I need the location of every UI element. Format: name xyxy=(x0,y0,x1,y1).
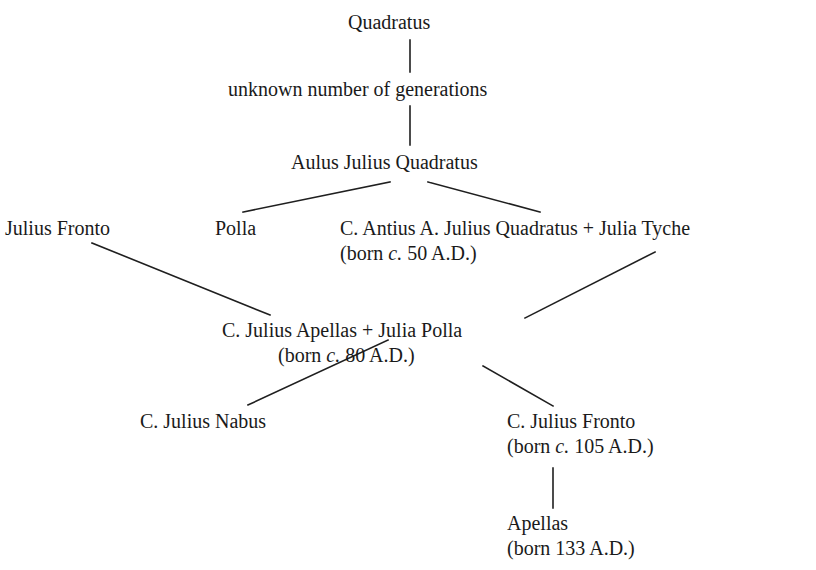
node-aulus-julius-quadratus: Aulus Julius Quadratus xyxy=(291,150,478,175)
edge-aulus-polla xyxy=(243,182,390,212)
node-polla: Polla xyxy=(215,216,256,241)
node-julius-fronto-jr: C. Julius Fronto (born c. 105 A.D.) xyxy=(507,409,654,459)
node-unknown-generations-label: unknown number of generations xyxy=(228,77,487,102)
node-antius-birth-note: (born c. 50 A.D.) xyxy=(340,241,690,266)
node-quadratus-label: Quadratus xyxy=(348,10,430,35)
node-julius-fronto-jr-birth-note: (born c. 105 A.D.) xyxy=(507,434,654,459)
genealogy-chart: Quadratus unknown number of generations … xyxy=(0,0,816,570)
node-antius-julius-quadratus-couple-label: C. Antius A. Julius Quadratus + Julia Ty… xyxy=(340,216,690,241)
node-julius-apellas-couple: C. Julius Apellas + Julia Polla (born c.… xyxy=(222,318,462,368)
node-apellas-birth-note: (born 133 A.D.) xyxy=(507,536,635,561)
node-quadratus: Quadratus xyxy=(348,10,430,35)
node-julius-nabus-label: C. Julius Nabus xyxy=(140,409,266,434)
node-julius-apellas-couple-label: C. Julius Apellas + Julia Polla xyxy=(222,318,462,343)
node-aulus-julius-quadratus-label: Aulus Julius Quadratus xyxy=(291,150,478,175)
edge-apellascouple-fronto xyxy=(483,366,553,406)
edge-fronto-apellascouple xyxy=(92,243,270,315)
node-julia-polla-birth-note: (born c. 80 A.D.) xyxy=(222,343,462,368)
node-julius-fronto: Julius Fronto xyxy=(5,216,110,241)
node-julius-nabus: C. Julius Nabus xyxy=(140,409,266,434)
node-apellas: Apellas (born 133 A.D.) xyxy=(507,511,635,561)
node-julius-fronto-jr-label: C. Julius Fronto xyxy=(507,409,654,434)
node-julius-fronto-label: Julius Fronto xyxy=(5,216,110,241)
node-apellas-label: Apellas xyxy=(507,511,635,536)
node-unknown-generations: unknown number of generations xyxy=(228,77,487,102)
edge-aulus-antius xyxy=(428,182,540,212)
node-antius-julius-quadratus-couple: C. Antius A. Julius Quadratus + Julia Ty… xyxy=(340,216,690,266)
node-polla-label: Polla xyxy=(215,216,256,241)
